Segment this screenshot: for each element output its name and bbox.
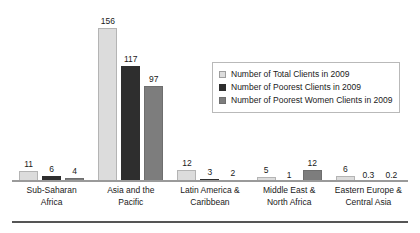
category-label-line: Africa [12, 197, 91, 209]
bar-item[interactable]: 11 [19, 6, 38, 182]
legend-item[interactable]: Number of Poorest Clients in 2009 [219, 81, 392, 94]
category-label: Middle East &North Africa [250, 185, 329, 208]
category-label: Eastern Europe &Central Asia [329, 185, 408, 208]
bar-value-label: 6 [343, 164, 348, 174]
bar-rect[interactable] [144, 86, 163, 182]
category-label: Asia and thePacific [91, 185, 170, 208]
bar-value-label: 11 [24, 159, 33, 169]
bar-value-label: 4 [72, 166, 77, 176]
bar-value-label: 2 [231, 168, 236, 178]
bar-item[interactable]: 4 [65, 6, 84, 182]
bar-item[interactable]: 12 [177, 6, 196, 182]
bar-item[interactable]: 97 [144, 6, 163, 182]
legend-swatch-icon [219, 71, 226, 78]
category-label-line: Pacific [91, 197, 170, 209]
legend-item[interactable]: Number of Poorest Women Clients in 2009 [219, 94, 392, 107]
category-label: Latin America &Caribbean [170, 185, 249, 208]
bar-value-label: 12 [182, 158, 191, 168]
category-label-line: Middle East & [250, 185, 329, 197]
legend-label: Number of Poorest Clients in 2009 [231, 82, 361, 93]
bar-group-bars: 1164 [12, 6, 91, 182]
bar-value-label: 0.2 [385, 170, 397, 180]
category-label-line: Eastern Europe & [329, 185, 408, 197]
bar-value-label: 0.3 [362, 170, 374, 180]
legend-swatch-icon [219, 84, 226, 91]
bar-rect[interactable] [121, 66, 140, 182]
category-label: Sub-SaharanAfrica [12, 185, 91, 208]
category-label-line: Central Asia [329, 197, 408, 209]
bar-group-bars: 15611797 [91, 6, 170, 182]
bar-value-label: 117 [124, 54, 138, 64]
bar-rect[interactable] [98, 28, 117, 182]
bar-value-label: 12 [307, 158, 316, 168]
bar-group: 15611797 [91, 6, 170, 182]
legend-swatch-icon [219, 97, 226, 104]
category-label-line: Caribbean [170, 197, 249, 209]
bar-value-label: 3 [208, 167, 213, 177]
bar-item[interactable]: 6 [42, 6, 61, 182]
bar-chart: 1164156117971232511260.30.2 Sub-SaharanA… [0, 0, 420, 233]
legend-item[interactable]: Number of Total Clients in 2009 [219, 68, 392, 81]
category-label-line: Asia and the [91, 185, 170, 197]
category-axis-labels: Sub-SaharanAfricaAsia and thePacificLati… [12, 185, 408, 217]
category-label-line: North Africa [250, 197, 329, 209]
bottom-divider-rule [12, 221, 408, 223]
bar-value-label: 1 [287, 170, 292, 180]
chart-legend: Number of Total Clients in 2009Number of… [212, 62, 400, 113]
bar-item[interactable]: 156 [98, 6, 117, 182]
category-label-line: Sub-Saharan [12, 185, 91, 197]
bar-value-label: 97 [149, 74, 158, 84]
bar-value-label: 156 [101, 16, 115, 26]
legend-label: Number of Poorest Women Clients in 2009 [231, 95, 392, 106]
bar-value-label: 6 [49, 164, 54, 174]
bar-group: 1164 [12, 6, 91, 182]
legend-label: Number of Total Clients in 2009 [231, 69, 349, 80]
x-axis-baseline [12, 180, 408, 182]
category-label-line: Latin America & [170, 185, 249, 197]
bar-value-label: 5 [264, 165, 269, 175]
bar-item[interactable]: 117 [121, 6, 140, 182]
